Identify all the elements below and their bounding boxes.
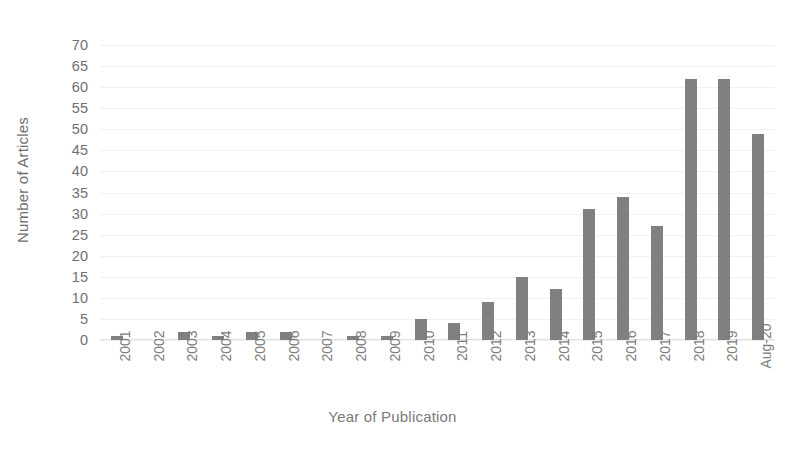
x-tick-label: 2014 [556,330,572,361]
x-tick-label: 2011 [454,331,470,361]
x-tick-slot: 2011 [438,344,472,404]
x-tick-slot: 2010 [404,344,438,404]
y-tick-label: 35 [28,185,88,201]
y-tick-label: 55 [28,100,88,116]
bar-slot [741,45,775,340]
bar-slot [471,45,505,340]
x-tick-label: 2005 [252,330,268,361]
x-tick-slot: Aug-20 [741,344,775,404]
y-tick-label: 40 [28,163,88,179]
bar-slot [674,45,708,340]
y-tick-label: 60 [28,79,88,95]
x-tick-label: 2013 [522,330,538,361]
bar-chart: Number of Articles 051015202530354045505… [0,0,785,452]
x-tick-label: 2008 [353,330,369,361]
x-tick-slot: 2018 [674,344,708,404]
x-tick-label: 2006 [286,330,302,361]
x-tick-slot: 2003 [168,344,202,404]
x-tick-label: 2001 [117,330,133,361]
y-axis-tick-labels: 0510152025303540455055606570 [26,45,88,340]
x-tick-slot: 2001 [100,344,134,404]
bar-slot [640,45,674,340]
x-tick-slot: 2002 [134,344,168,404]
x-tick-label: 2004 [218,330,234,361]
bar[interactable] [718,79,730,340]
x-tick-slot: 2009 [370,344,404,404]
x-tick-slot: 2016 [606,344,640,404]
y-tick-label: 50 [28,121,88,137]
bar-slot [404,45,438,340]
x-tick-slot: 2015 [573,344,607,404]
y-tick-label: 25 [28,227,88,243]
bar-slot [269,45,303,340]
bar[interactable] [752,134,764,341]
y-tick-label: 20 [28,248,88,264]
x-tick-slot: 2004 [201,344,235,404]
x-tick-label: 2002 [151,330,167,361]
bar[interactable] [651,226,663,340]
x-tick-slot: 2017 [640,344,674,404]
bar-slot [505,45,539,340]
bar[interactable] [685,79,697,340]
bar[interactable] [583,209,595,340]
plot-area [100,45,775,340]
y-tick-label: 10 [28,290,88,306]
y-tick-label: 30 [28,206,88,222]
x-tick-slot: 2019 [708,344,742,404]
bar-slot [438,45,472,340]
bar-slot [606,45,640,340]
bar-slot [303,45,337,340]
x-tick-slot: 2007 [303,344,337,404]
bar-series [100,45,775,340]
bar-slot [573,45,607,340]
x-tick-slot: 2008 [336,344,370,404]
bar-slot [539,45,573,340]
bar-slot [708,45,742,340]
x-tick-label: 2019 [724,330,740,361]
bar-slot [168,45,202,340]
bar-slot [235,45,269,340]
x-tick-label: 2012 [488,330,504,361]
y-tick-label: 65 [28,58,88,74]
bar-slot [336,45,370,340]
x-tick-label: 2010 [421,330,437,361]
x-tick-slot: 2012 [471,344,505,404]
y-tick-label: 0 [28,332,88,348]
x-tick-slot: 2014 [539,344,573,404]
x-tick-label: 2007 [319,330,335,361]
bar-slot [201,45,235,340]
x-tick-slot: 2005 [235,344,269,404]
bar-slot [370,45,404,340]
x-tick-slot: 2006 [269,344,303,404]
x-tick-slot: 2013 [505,344,539,404]
x-axis-title: Year of Publication [0,408,785,425]
x-tick-label: 2017 [657,330,673,361]
x-tick-label: 2003 [184,330,200,361]
x-tick-label: 2009 [387,330,403,361]
y-tick-label: 70 [28,37,88,53]
bar-slot [134,45,168,340]
bar[interactable] [617,197,629,340]
x-tick-label: 2015 [589,330,605,361]
x-axis-tick-labels: 2001200220032004200520062007200820092010… [100,344,775,404]
x-tick-label: Aug-20 [758,323,774,368]
y-tick-label: 45 [28,142,88,158]
y-tick-label: 5 [28,311,88,327]
bar-slot [100,45,134,340]
y-tick-label: 15 [28,269,88,285]
x-tick-label: 2016 [623,330,639,361]
gridline [100,340,775,341]
x-tick-label: 2018 [691,330,707,361]
